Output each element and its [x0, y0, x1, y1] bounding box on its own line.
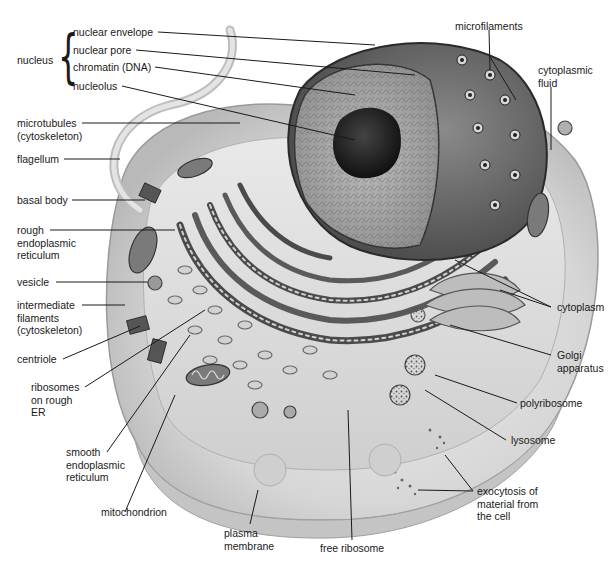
label-nuclear-envelope: nuclear envelope	[73, 26, 153, 39]
label-polyribosome: polyribosome	[520, 397, 582, 410]
label-lysosome: lysosome	[511, 434, 555, 447]
label-flagellum: flagellum	[17, 153, 59, 166]
label-ribosomes-on-rough-er: ribosomes on rough ER	[31, 381, 79, 419]
label-basal-body: basal body	[17, 194, 68, 207]
label-mitochondrion: mitochondrion	[101, 506, 167, 519]
nucleus	[288, 43, 547, 260]
label-nucleus: nucleus	[17, 54, 53, 67]
label-microfilaments: microfilaments	[455, 20, 523, 33]
label-centriole: centriole	[17, 353, 57, 366]
label-free-ribosome: free ribosome	[320, 542, 384, 555]
label-vesicle: vesicle	[17, 276, 49, 289]
label-nuclear-pore: nuclear pore	[73, 44, 131, 57]
label-microtubules: microtubules (cytoskeleton)	[17, 117, 82, 142]
label-golgi-apparatus: Golgi apparatus	[557, 349, 604, 374]
label-nucleolus: nucleolus	[73, 80, 117, 93]
label-plasma-membrane: plasma membrane	[224, 527, 274, 552]
label-cytoplasmic-fluid: cytoplasmic fluid	[538, 64, 593, 89]
label-rough-er: rough endoplasmic reticulum	[17, 224, 76, 262]
label-cytoplasm: cytoplasm	[557, 301, 604, 314]
label-chromatin: chromatin (DNA)	[73, 61, 151, 74]
label-smooth-er: smooth endoplasmic reticulum	[66, 446, 125, 484]
label-intermediate-filaments: intermediate filaments (cytoskeleton)	[17, 299, 82, 337]
label-exocytosis: exocytosis of material from the cell	[477, 485, 538, 523]
